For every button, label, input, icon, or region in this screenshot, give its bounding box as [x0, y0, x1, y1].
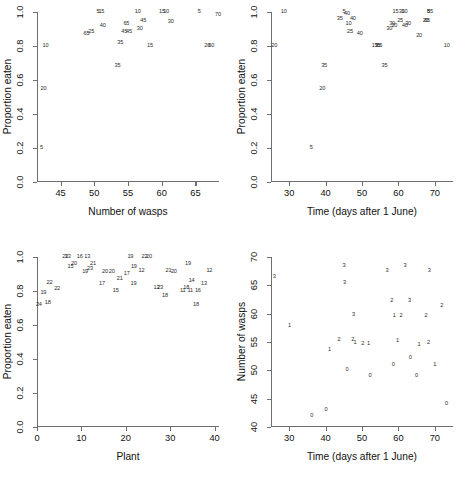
data-point-label: 10 [444, 43, 450, 49]
data-point-label: 3 [386, 268, 389, 274]
x-tick-label: 30 [284, 188, 294, 198]
data-point-label: 45 [140, 18, 146, 24]
x-tick-label: 60 [393, 188, 403, 198]
y-tick-label: 0.8 [15, 35, 25, 57]
panel-4-axes-frame: 31001233021321032011233001322120 [271, 257, 453, 427]
x-tick-label: 20 [121, 433, 131, 443]
data-point-label: 11 [188, 288, 193, 294]
data-point-label: 70 [215, 13, 221, 19]
data-point-label: 1 [433, 362, 436, 368]
data-point-label: 20 [319, 86, 325, 92]
y-tick-label: 55 [249, 331, 259, 353]
panel-3-y-axis-title: Proportion eaten [2, 257, 13, 427]
panel-2-axes-frame: 2010520353554010254040153565353030201525… [271, 12, 453, 182]
data-point-label: 35 [115, 64, 121, 70]
x-tick-label: 10 [76, 433, 86, 443]
panel-4-x-axis-title: Time (days after 1 June) [307, 451, 417, 462]
data-point-label: 40 [100, 23, 106, 29]
data-point-label: 20 [71, 261, 77, 267]
data-point-label: 18 [45, 300, 51, 306]
panel-3: 2419182222231315201613192321172020152117… [0, 245, 234, 490]
x-tick-label: 60 [157, 188, 167, 198]
data-point-label: 23 [157, 285, 163, 291]
data-point-label: 45 [126, 30, 132, 36]
data-point-label: 10 [163, 9, 169, 15]
data-point-label: 20 [109, 270, 115, 276]
y-tick-label: 0.8 [249, 35, 259, 57]
x-tick [362, 427, 363, 431]
data-point-label: 12 [139, 268, 145, 274]
panel-4-plot-area: 31001233021321032011233001322120 [272, 257, 453, 426]
data-point-label: 19 [131, 281, 137, 287]
y-tick-label: 0.4 [15, 103, 25, 125]
data-point-label: 20 [391, 23, 397, 29]
data-point-label: 21 [117, 276, 123, 282]
y-tick [267, 80, 271, 81]
data-point-label: 16 [77, 254, 83, 260]
y-tick [267, 427, 271, 428]
data-point-label: 14 [189, 278, 195, 284]
x-tick [435, 182, 436, 186]
y-tick [267, 257, 271, 258]
data-point-label: 2 [425, 313, 428, 319]
x-tick-label: 40 [320, 433, 330, 443]
y-tick [33, 46, 37, 47]
data-point-label: 12 [206, 268, 212, 274]
y-tick-label: 0.6 [15, 69, 25, 91]
y-tick [267, 342, 271, 343]
y-tick-label: 60 [249, 303, 259, 325]
data-point-label: 30 [168, 19, 174, 25]
data-point-label: 35 [321, 64, 327, 70]
data-point-label: 20 [40, 86, 46, 92]
y-tick-label: 1.0 [249, 1, 259, 23]
data-point-label: 19 [127, 254, 133, 260]
panel-2-y-axis-title: Proportion eaten [236, 12, 247, 182]
data-point-label: 40 [357, 31, 363, 37]
panel-1-y-axis-title: Proportion eaten [2, 12, 13, 182]
data-point-label: 2 [390, 298, 393, 304]
panel-3-axes-frame: 2419182222231315201613192321172020152117… [37, 257, 219, 427]
data-point-label: 1 [328, 347, 331, 353]
x-tick [195, 182, 196, 186]
data-point-label: 20 [416, 33, 422, 39]
data-point-label: 19 [185, 261, 191, 267]
data-point-label: 35 [117, 40, 123, 46]
y-tick [33, 114, 37, 115]
data-point-label: 19 [40, 290, 46, 296]
data-point-label: 35 [382, 64, 388, 70]
figure-panel-grid: 5201065255154035354565451030451515103052… [0, 0, 469, 490]
data-point-label: 30 [137, 26, 143, 32]
data-point-label: 24 [36, 302, 42, 308]
data-point-label: 1 [354, 340, 357, 346]
x-tick [398, 427, 399, 431]
y-tick-label: 1.0 [15, 1, 25, 23]
x-tick-label: 55 [123, 188, 133, 198]
y-tick-label: 40 [249, 416, 259, 438]
data-point-label: 85 [427, 9, 433, 15]
x-tick-label: 40 [209, 433, 219, 443]
y-tick [267, 314, 271, 315]
data-point-label: 0 [445, 402, 448, 408]
data-point-label: 3 [343, 280, 346, 286]
y-tick [267, 148, 271, 149]
y-tick-label: 70 [249, 246, 259, 268]
data-point-label: 1 [418, 342, 421, 348]
data-point-label: 2 [440, 303, 443, 309]
x-tick-label: 50 [357, 433, 367, 443]
data-point-label: 25 [88, 30, 94, 36]
data-point-label: 15 [113, 288, 119, 294]
data-point-label: 20 [146, 254, 152, 260]
data-point-label: 25 [347, 30, 353, 36]
data-point-label: 5 [198, 9, 201, 15]
y-tick [267, 114, 271, 115]
panel-2-x-axis-title: Time (days after 1 June) [307, 206, 417, 217]
x-tick-label: 40 [320, 188, 330, 198]
data-point-label: 2 [338, 337, 341, 343]
panel-1-x-axis-title: Number of wasps [88, 206, 167, 217]
x-tick [435, 427, 436, 431]
panel-4-y-axis-title: Number of wasps [236, 257, 247, 427]
y-tick-label: 0.0 [15, 416, 25, 438]
y-tick-label: 0.2 [15, 382, 25, 404]
data-point-label: 10 [402, 9, 408, 15]
y-tick-label: 0.6 [15, 314, 25, 336]
